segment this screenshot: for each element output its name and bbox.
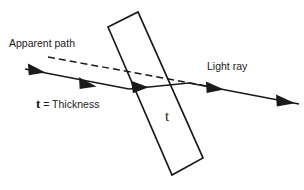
apparent-path-dashed-line: [48, 57, 207, 86]
thickness-equation-text: = Thickness: [40, 98, 99, 110]
emergent-ray-arrowhead-1: [206, 82, 224, 93]
emergent-ray-arrowhead-2: [276, 95, 295, 107]
slab-thickness-mark: t: [165, 108, 169, 125]
light-ray-label: Light ray: [207, 61, 247, 72]
internal-ray-arrowhead: [131, 81, 149, 94]
apparent-path-label: Apparent path: [9, 38, 75, 49]
thickness-legend: t = Thickness: [36, 97, 99, 110]
optics-diagram: [0, 0, 304, 190]
diagram-canvas: Apparent path Light ray t = Thickness t: [0, 0, 304, 190]
glass-slab-shape: [108, 12, 203, 175]
incident-ray-arrowhead-1: [28, 63, 46, 75]
